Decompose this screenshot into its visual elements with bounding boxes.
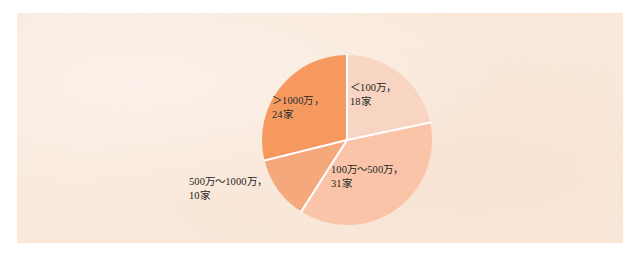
pie-chart-figure: ＜100万， 18家 100万～500万， 31家 500万～1000万， 10…	[0, 0, 640, 257]
pie-label-500-1000-line2: 10家	[189, 189, 267, 203]
pie-svg	[261, 54, 433, 226]
pie-label-gt1000-line2: 24家	[272, 108, 324, 122]
pie-label-100-500: 100万～500万， 31家	[331, 163, 404, 192]
pie-label-500-1000-line1: 500万～1000万，	[189, 176, 267, 187]
pie-label-gt1000: ＞1000万， 24家	[272, 94, 324, 123]
pie-label-lt100-line1: ＜100万，	[350, 82, 396, 93]
pie-label-lt100-line2: 18家	[350, 95, 396, 109]
pie-label-lt100: ＜100万， 18家	[350, 81, 396, 110]
pie-label-100-500-line2: 31家	[331, 177, 404, 191]
pie-label-500-1000: 500万～1000万， 10家	[189, 175, 267, 204]
pie-label-100-500-line1: 100万～500万，	[331, 164, 404, 175]
chart-panel: ＜100万， 18家 100万～500万， 31家 500万～1000万， 10…	[17, 13, 623, 243]
pie-chart	[261, 54, 433, 226]
pie-label-gt1000-line1: ＞1000万，	[272, 95, 324, 106]
